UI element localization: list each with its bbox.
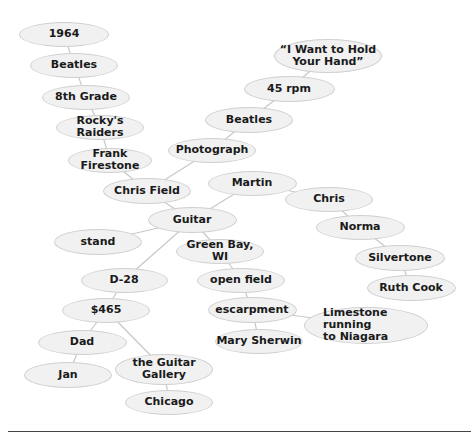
node-frank: Frank Firestone (68, 148, 152, 173)
node-beatles1: Beatles (30, 53, 118, 78)
node-grade8: 8th Grade (42, 85, 130, 110)
node-d28: D-28 (81, 268, 168, 293)
node-guitargallery: the Guitar Gallery (115, 354, 213, 385)
node-dad: Dad (38, 330, 127, 355)
node-photograph: Photograph (168, 138, 256, 163)
node-dollar465: $465 (62, 298, 150, 323)
node-beatles2: Beatles (205, 107, 293, 133)
node-chicago: Chicago (125, 390, 213, 415)
node-escarpment: escarpment (208, 297, 297, 323)
node-limestone: Limestone running to Niagara (304, 307, 428, 344)
node-n1964: 1964 (19, 22, 109, 47)
node-martin: Martin (208, 171, 297, 196)
node-marysherwin: Mary Sherwin (215, 329, 303, 354)
node-greenbay: Green Bay, WI (176, 239, 264, 264)
node-openfield: open field (197, 268, 285, 293)
node-stand: stand (54, 229, 142, 255)
node-norma: Norma (316, 215, 405, 240)
node-rockys: Rocky's Raiders (56, 115, 144, 140)
node-ruthcook: Ruth Cook (367, 275, 456, 301)
bottom-divider (8, 431, 471, 432)
node-iwant: “I Want to Hold Your Hand” (274, 39, 382, 73)
node-rpm45: 45 rpm (244, 76, 335, 102)
node-jan: Jan (24, 362, 112, 388)
node-chrisfield: Chris Field (103, 178, 191, 204)
node-guitar: Guitar (148, 207, 237, 233)
node-chris: Chris (285, 187, 373, 212)
cluster-diagram: 1964Beatles8th GradeRocky's RaidersFrank… (0, 0, 471, 438)
node-silvertone: Silvertone (355, 245, 445, 271)
